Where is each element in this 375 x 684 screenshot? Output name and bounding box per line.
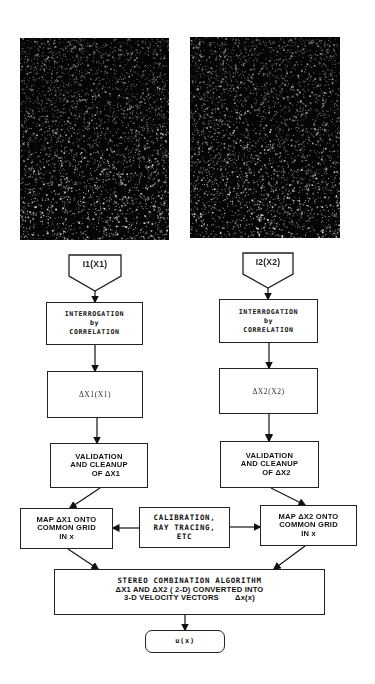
- map-line-3: IN x: [59, 533, 74, 542]
- output-label: u(x): [175, 637, 195, 647]
- stereo-line-3: 3-D VELOCITY VECTORS Δx(x): [124, 594, 255, 603]
- validation-line-3: OF ΔX1: [78, 470, 121, 479]
- input-label-right: I2(X2): [243, 257, 293, 267]
- interrogation-box-left: INTERROGATION by CORRELATION: [46, 302, 143, 345]
- interrogation-line-1: INTERROGATION: [239, 308, 298, 317]
- validation-line-3: OF ΔX2: [248, 469, 291, 478]
- interrogation-line-2: by: [90, 319, 99, 328]
- interrogation-line-3: CORRELATION: [243, 326, 293, 335]
- arrow-right-map-to-stereo: [274, 546, 305, 569]
- calibration-line-3: ETC: [177, 532, 192, 542]
- map-line-3: IN x: [301, 530, 316, 539]
- calibration-box: CALIBRATION, RAY TRACING, ETC: [139, 507, 230, 548]
- validation-box-left: VALIDATION AND CLEANUP OF ΔX1: [50, 443, 148, 488]
- output-terminal: u(x): [145, 630, 225, 653]
- interrogation-box-right: INTERROGATION by CORRELATION: [219, 299, 318, 343]
- displacement-label-left: ΔX1(X1): [79, 390, 111, 399]
- displacement-box-left: ΔX1(X1): [47, 371, 143, 418]
- calibration-line-2: RAY TRACING,: [154, 523, 216, 533]
- calibration-line-1: CALIBRATION,: [154, 513, 216, 523]
- validation-box-right: VALIDATION AND CLEANUP OF ΔX2: [220, 441, 319, 488]
- arrow-right-validation-to-map: [271, 488, 305, 505]
- interrogation-line-3: CORRELATION: [69, 328, 119, 337]
- arrow-right-validation-tail-mark: [265, 434, 273, 441]
- map-box-right: MAP ΔX2 ONTO COMMON GRID IN x: [260, 505, 357, 546]
- interrogation-line-1: INTERROGATION: [65, 310, 124, 319]
- particle-image-camera-2: [190, 37, 340, 238]
- arrow-left-map-to-stereo: [68, 549, 98, 569]
- displacement-label-right: ΔX2(X2): [252, 387, 284, 396]
- arrow-left-validation-to-map: [70, 488, 100, 508]
- input-label-left: I1(X1): [69, 259, 121, 269]
- interrogation-line-2: by: [264, 317, 273, 326]
- map-box-left: MAP ΔX1 ONTO COMMON GRID IN x: [20, 508, 113, 549]
- stereo-combination-box: STEREO COMBINATION ALGORITHM ΔX1 AND ΔX2…: [54, 569, 325, 615]
- displacement-box-right: ΔX2(X2): [219, 368, 318, 414]
- particle-image-camera-1: [20, 38, 169, 240]
